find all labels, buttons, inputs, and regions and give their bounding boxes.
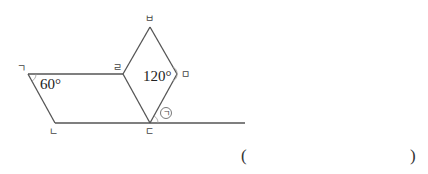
vertex-label-rieul: ㄹ bbox=[113, 62, 122, 73]
angle-arc-unknown bbox=[154, 116, 158, 123]
answer-open-paren: ( bbox=[241, 146, 247, 166]
vertex-label-bieup: ㅂ bbox=[145, 13, 154, 24]
angle-arc-giyeok bbox=[32, 74, 36, 81]
answer-blank[interactable] bbox=[260, 146, 400, 166]
answer-close-paren: ) bbox=[410, 146, 416, 166]
unknown-angle-label: ㄱ bbox=[163, 109, 170, 118]
vertex-label-nieun: ㄴ bbox=[49, 126, 58, 137]
unknown-angle-marker: ㄱ bbox=[161, 108, 172, 119]
edge-rieul-bieup bbox=[123, 27, 150, 74]
vertex-label-giyeok: ㄱ bbox=[17, 63, 26, 74]
angle-value-giyeok: 60° bbox=[40, 76, 61, 92]
vertex-label-mieum: ㅁ bbox=[181, 69, 190, 80]
edge-bieup-mieum bbox=[150, 27, 177, 74]
angle-value-mieum: 120° bbox=[143, 68, 172, 84]
vertex-label-digeut: ㄷ bbox=[145, 126, 154, 137]
